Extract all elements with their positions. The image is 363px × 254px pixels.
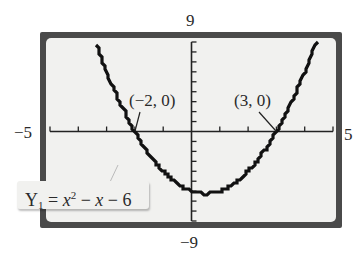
eq-rest: − 6	[103, 190, 131, 210]
eq-x: x	[63, 190, 71, 210]
root-right-leader	[259, 112, 276, 132]
equation-label: Y1 = x2 − x − 6	[17, 181, 149, 209]
eq-equals: =	[44, 190, 63, 210]
root-left-leader	[135, 112, 140, 132]
equation-leader	[110, 165, 118, 182]
root-left-label: (−2, 0)	[128, 92, 176, 109]
graph-plot	[0, 0, 363, 254]
root-right-label: (3, 0)	[233, 92, 272, 109]
eq-minus: −	[76, 190, 95, 210]
parabola-curve	[96, 42, 318, 195]
eq-y: Y	[25, 190, 38, 210]
